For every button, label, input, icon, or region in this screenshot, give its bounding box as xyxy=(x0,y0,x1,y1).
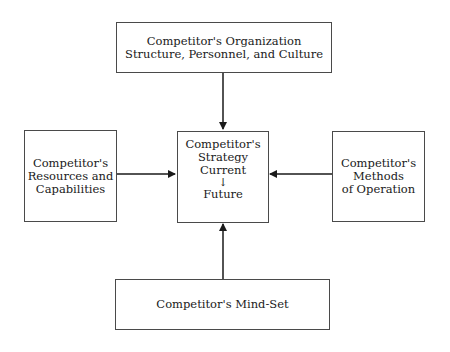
resources-line-1: Competitor's xyxy=(33,157,108,170)
organization-line-2: Structure, Personnel, and Culture xyxy=(125,48,323,61)
organization-box: Competitor's Organization Structure, Per… xyxy=(116,22,332,73)
strategy-box: Competitor's Strategy Current ↓ Future xyxy=(177,131,269,223)
organization-line-1: Competitor's Organization xyxy=(147,35,302,48)
methods-line-3: of Operation xyxy=(342,183,415,196)
resources-line-3: Capabilities xyxy=(36,183,105,196)
strategy-future: Future xyxy=(203,188,243,201)
resources-line-2: Resources and xyxy=(28,170,114,183)
mindset-line-1: Competitor's Mind-Set xyxy=(156,298,288,311)
methods-box: Competitor's Methods of Operation xyxy=(332,131,425,222)
mindset-box: Competitor's Mind-Set xyxy=(115,279,330,330)
resources-box: Competitor's Resources and Capabilities xyxy=(24,130,117,222)
